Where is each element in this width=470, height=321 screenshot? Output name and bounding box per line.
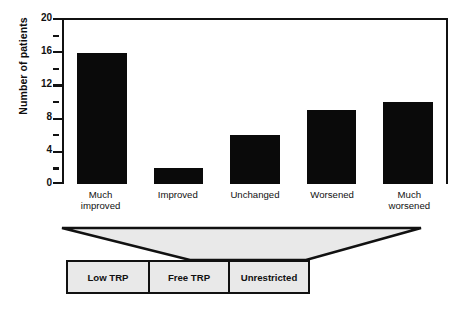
bar-improved xyxy=(154,168,204,184)
bar-slot-unchanged xyxy=(230,20,280,184)
y-tick-major-0 xyxy=(53,182,62,184)
y-tick-minor-10 xyxy=(53,101,59,103)
x-label-line2: worsened xyxy=(377,200,443,211)
y-tick-label-4: 4 xyxy=(30,145,52,155)
y-tick-major-8 xyxy=(53,118,62,120)
x-label-worsened: Worsened xyxy=(299,189,365,219)
x-label-much-worsened: Much worsened xyxy=(377,189,443,219)
bar-worsened xyxy=(307,110,357,184)
x-axis-category-labels: Much improved Improved Unchanged Worsene… xyxy=(62,189,448,219)
bar-series xyxy=(64,20,446,184)
bar-slot-much-improved xyxy=(77,20,127,184)
y-tick-minor-18 xyxy=(53,35,59,37)
plot-area xyxy=(62,18,448,184)
y-tick-major-12 xyxy=(53,84,62,86)
bar-slot-much-worsened xyxy=(383,20,433,184)
treatment-box-unrestricted[interactable]: Unrestricted xyxy=(228,262,308,292)
figure-bar-chart: Number of patients 20 16 12 8 4 0 xyxy=(0,0,470,321)
treatment-box-low-trp[interactable]: Low TRP xyxy=(68,262,148,292)
x-label-line1: Worsened xyxy=(299,189,365,200)
treatment-box-label: Low TRP xyxy=(87,272,128,283)
funnel-shape xyxy=(62,228,421,260)
y-axis-tick-labels: 20 16 12 8 4 0 xyxy=(28,0,52,321)
bar-much-improved xyxy=(77,53,127,184)
x-label-improved: Improved xyxy=(145,189,211,219)
y-tick-label-16: 16 xyxy=(30,46,52,56)
treatment-box-label: Unrestricted xyxy=(241,272,298,283)
bar-much-worsened xyxy=(383,102,433,184)
treatment-box-row: Low TRP Free TRP Unrestricted xyxy=(66,260,310,294)
y-tick-major-20 xyxy=(53,18,62,20)
x-label-line1: Improved xyxy=(145,189,211,200)
y-tick-label-20: 20 xyxy=(30,13,52,23)
y-tick-major-16 xyxy=(53,51,62,53)
x-label-line1: Much xyxy=(68,189,134,200)
x-label-line1: Unchanged xyxy=(222,189,288,200)
treatment-box-free-trp[interactable]: Free TRP xyxy=(148,262,228,292)
x-label-line1: Much xyxy=(377,189,443,200)
bar-unchanged xyxy=(230,135,280,184)
bar-slot-worsened xyxy=(307,20,357,184)
y-tick-label-12: 12 xyxy=(30,79,52,89)
y-tick-label-0: 0 xyxy=(30,178,52,188)
x-label-line2: improved xyxy=(68,200,134,211)
treatment-box-label: Free TRP xyxy=(168,272,210,283)
y-tick-major-4 xyxy=(53,151,62,153)
x-label-much-improved: Much improved xyxy=(68,189,134,219)
x-label-unchanged: Unchanged xyxy=(222,189,288,219)
y-tick-minor-6 xyxy=(53,134,59,136)
bar-slot-improved xyxy=(154,20,204,184)
y-tick-label-8: 8 xyxy=(30,112,52,122)
y-tick-minor-2 xyxy=(53,167,59,169)
y-tick-minor-14 xyxy=(53,68,59,70)
